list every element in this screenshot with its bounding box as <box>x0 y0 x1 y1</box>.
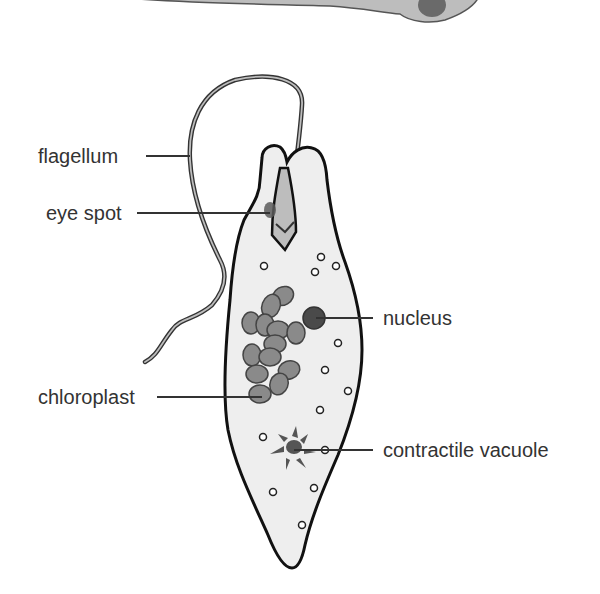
euglena-diagram <box>0 0 600 594</box>
label-nucleus: nucleus <box>383 308 452 328</box>
label-contractile-vacuole: contractile vacuole <box>383 440 549 460</box>
top-partial-organism <box>80 0 480 22</box>
label-eye-spot: eye spot <box>46 203 122 223</box>
label-chloroplast: chloroplast <box>38 387 135 407</box>
label-flagellum: flagellum <box>38 146 118 166</box>
eye-spot <box>264 202 276 218</box>
